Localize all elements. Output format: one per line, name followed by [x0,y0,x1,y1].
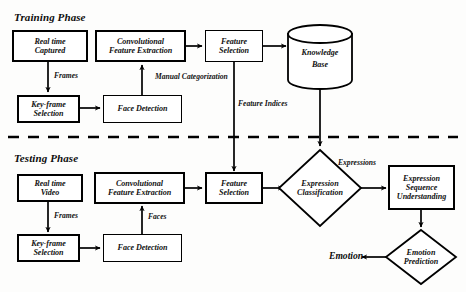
edge-label-frames-testing: Frames [54,212,78,221]
node-knowledge-base[interactable]: Knowledge Base [288,38,352,80]
node-face-detection-training-label: Face Detection [118,104,168,113]
edge-label-manual-categorization-line2: Categorization [182,72,228,81]
node-key-frame-selection-testing[interactable]: Key-frame Selection [17,234,80,262]
node-feature-selection-testing-line1: Feature [219,179,249,188]
node-face-detection-testing-label: Face Detection [118,243,168,252]
edge-label-faces: Faces [148,213,167,222]
node-face-detection-testing[interactable]: Face Detection [103,234,182,262]
node-key-frame-training-line2: Selection [31,109,66,118]
testing-phase-title: Testing Phase [14,152,78,164]
node-feature-selection-training[interactable]: Feature Selection [205,30,263,62]
node-feature-selection-testing-line2: Selection [219,188,249,197]
node-expression-sequence-line2: Sequence [397,183,446,192]
node-real-time-video[interactable]: Real time Video [17,174,83,202]
node-real-time-captured[interactable]: Real time Captured [12,30,88,62]
node-real-time-video-line2: Video [34,188,65,197]
edge-label-feature-indices: Feature Indices [238,100,288,109]
node-conv-feature-extraction-training[interactable]: Convolutional Feature Extraction [95,30,186,62]
training-phase-title: Training Phase [14,11,86,23]
node-conv-feature-testing-line1: Convolutional [108,179,171,188]
node-real-time-captured-line2: Captured [34,46,65,55]
node-real-time-captured-line1: Real time [34,37,65,46]
edge-label-frames-training: Frames [54,72,78,81]
emotion-prediction-diamond [386,230,456,284]
node-key-frame-testing-line1: Key-frame [31,239,66,248]
flowchart-diagram: Training Phase Real time Captured Convol… [0,0,466,292]
node-key-frame-testing-line2: Selection [31,248,66,257]
node-real-time-video-line1: Real time [34,179,65,188]
node-feature-selection-training-line1: Feature [219,37,249,46]
node-face-detection-training[interactable]: Face Detection [103,95,182,123]
node-expression-sequence-line1: Expression [397,174,446,183]
edge-label-manual-categorization-line1: Manual [155,72,180,81]
node-feature-selection-testing[interactable]: Feature Selection [205,172,263,204]
node-conv-feature-training-line2: Feature Extraction [109,46,172,55]
node-conv-feature-extraction-testing[interactable]: Convolutional Feature Extraction [94,172,185,204]
edge-label-expressions: Expressions [338,159,376,168]
node-knowledge-base-line2: Base [302,59,339,71]
edge-label-manual-categorization: Manual Categorization [155,73,217,82]
node-knowledge-base-line1: Knowledge [302,47,339,59]
output-emotion-label: Emotion [329,250,363,261]
node-key-frame-selection-training[interactable]: Key-frame Selection [17,95,80,123]
node-expression-sequence-line3: Understanding [397,192,446,201]
node-key-frame-training-line1: Key-frame [31,100,66,109]
node-conv-feature-training-line1: Convolutional [109,37,172,46]
node-feature-selection-training-line2: Selection [219,46,249,55]
node-expression-sequence-understanding[interactable]: Expression Sequence Understanding [388,165,455,210]
node-conv-feature-testing-line2: Feature Extraction [108,188,171,197]
